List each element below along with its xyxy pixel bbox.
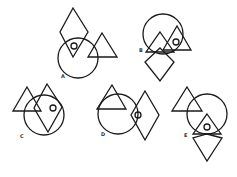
figure-options-diagram: A B C D E xyxy=(0,0,237,177)
option-label: B xyxy=(139,47,143,53)
small-circle-shape xyxy=(50,105,56,111)
option-label: A xyxy=(61,73,65,79)
option-label: D xyxy=(101,131,105,137)
triangle-shape xyxy=(163,26,191,50)
option-d[interactable]: D xyxy=(97,85,159,140)
diamond-shape xyxy=(60,8,88,57)
option-label: C xyxy=(20,133,24,139)
small-circle-shape xyxy=(173,39,179,45)
diamond-shape xyxy=(193,134,222,161)
triangle-shape xyxy=(97,85,126,109)
option-c[interactable]: C xyxy=(13,84,64,139)
option-e[interactable]: E xyxy=(172,87,227,161)
small-circle-shape xyxy=(71,43,77,49)
option-b[interactable]: B xyxy=(139,14,191,81)
large-circle-shape xyxy=(58,38,98,78)
option-label: E xyxy=(184,132,188,138)
diamond-shape xyxy=(34,84,62,132)
triangle-shape xyxy=(13,87,41,111)
option-a[interactable]: A xyxy=(58,8,117,79)
triangle-shape xyxy=(172,87,202,111)
small-circle-shape xyxy=(204,124,210,130)
